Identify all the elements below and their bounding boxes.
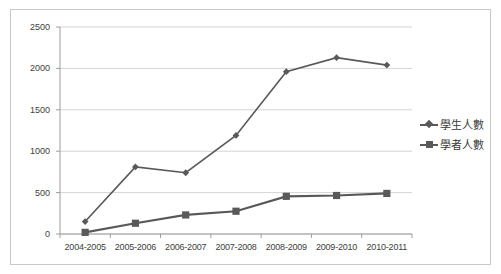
data-point-marker [132,220,139,227]
data-series-layer [82,54,391,236]
x-axis-tick-label: 2008-2009 [266,242,307,252]
data-point-marker [383,62,390,69]
y-axis-tick-label: 2000 [14,63,50,73]
x-axis-ticks [60,234,412,238]
data-point-marker [182,211,189,218]
data-point-marker [283,193,290,200]
y-axis-tick-label: 1000 [14,146,50,156]
series-1 [82,54,391,225]
legend-item-scholars[interactable]: 學者人數 [420,134,492,154]
x-axis-tick-label: 2005-2006 [115,242,156,252]
gridlines [60,27,412,234]
legend-label-scholars: 學者人數 [438,136,484,152]
x-axis-tick-label: 2010-2011 [367,242,408,252]
legend-item-students[interactable]: 學生人數 [420,114,492,134]
y-axis-tick-label: 0 [14,229,50,239]
series-2 [82,190,391,236]
data-point-marker [333,192,340,199]
chart-legend: 學生人數 學者人數 [420,114,492,154]
legend-label-students: 學生人數 [438,116,484,132]
x-axis-tick-label: 2009-2010 [316,242,357,252]
data-point-marker [333,54,340,61]
x-axis-tick-label: 2006-2007 [165,242,206,252]
y-axis-tick-label: 2500 [14,22,50,32]
series-line [85,58,387,222]
data-point-marker [82,229,89,236]
x-axis-tick-label: 2004-2005 [65,242,106,252]
y-axis-tick-label: 500 [14,188,50,198]
x-axis-tick-label: 2007-2008 [215,242,256,252]
diamond-marker-icon [420,119,438,130]
data-point-marker [383,190,390,197]
data-point-marker [232,208,239,215]
y-axis-tick-label: 1500 [14,105,50,115]
square-marker-icon [420,139,438,150]
axis-lines [56,27,412,234]
